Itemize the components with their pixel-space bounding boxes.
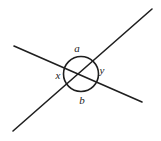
diagram-canvas xyxy=(0,0,161,141)
geometry-figure: a x y b xyxy=(0,0,161,141)
angle-label-a: a xyxy=(74,43,80,54)
figure-background xyxy=(0,0,161,141)
angle-label-y: y xyxy=(100,65,105,76)
angle-label-x: x xyxy=(56,70,61,81)
angle-label-b: b xyxy=(79,95,85,106)
